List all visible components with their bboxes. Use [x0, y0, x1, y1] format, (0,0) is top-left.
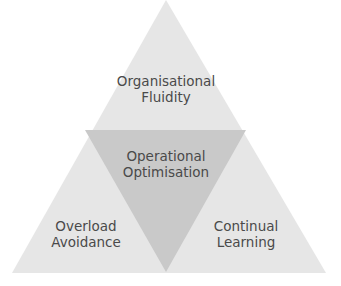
section-bottom-right-line1: Continual [214, 218, 278, 234]
section-center-label: Operational Optimisation [123, 148, 209, 180]
section-bottom-left-line1: Overload [51, 218, 121, 234]
section-top-line1: Organisational [117, 73, 215, 89]
section-center-line1: Operational [123, 148, 209, 164]
section-top-label: Organisational Fluidity [117, 73, 215, 105]
section-bottom-left-line2: Avoidance [51, 234, 121, 250]
triangle-diagram: Organisational Fluidity Operational Opti… [0, 0, 341, 286]
section-bottom-left-label: Overload Avoidance [51, 218, 121, 250]
section-bottom-right-line2: Learning [214, 234, 278, 250]
section-center-line2: Optimisation [123, 164, 209, 180]
section-bottom-right-label: Continual Learning [214, 218, 278, 250]
section-top-line2: Fluidity [117, 89, 215, 105]
